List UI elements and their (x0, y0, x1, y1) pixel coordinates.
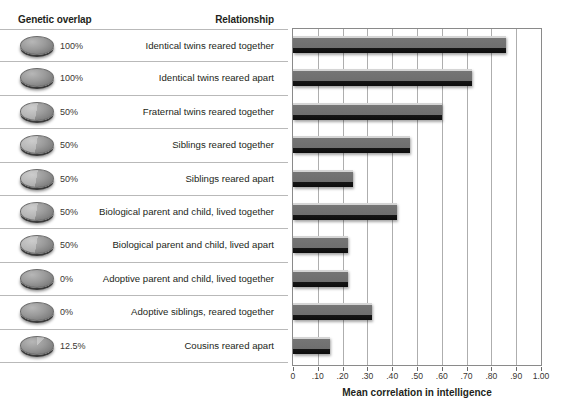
axis-tick-label: 0 (291, 371, 296, 381)
relationship-label: Identical twins reared together (145, 40, 274, 51)
bar-slot (293, 296, 541, 329)
axis-tick-label: .10 (312, 371, 324, 381)
bar (293, 303, 372, 320)
genetics-intelligence-figure: Genetic overlap Relationship 100%Identic… (0, 0, 573, 413)
genetic-overlap-disc-icon (20, 336, 54, 358)
bar-slot (293, 129, 541, 162)
plot-area (292, 28, 542, 366)
relationship-label: Adoptive parent and child, lived togethe… (103, 273, 274, 284)
bar-slot (293, 263, 541, 296)
table-row: 50%Siblings reared together (0, 129, 288, 162)
relationship-table: Genetic overlap Relationship 100%Identic… (0, 0, 288, 413)
bar (293, 69, 472, 86)
axis-tick-label: .70 (461, 371, 473, 381)
bar-slot (293, 196, 541, 229)
x-axis-title: Mean correlation in intelligence (292, 387, 542, 398)
genetic-overlap-percent: 0% (60, 274, 73, 284)
bar (293, 136, 410, 153)
bar (293, 236, 348, 253)
table-row: 100%Identical twins reared together (0, 29, 288, 62)
column-header-relationship: Relationship (215, 14, 274, 25)
genetic-overlap-disc-icon (20, 68, 54, 90)
axis-tick-label: .60 (436, 371, 448, 381)
genetic-overlap-percent: 12.5% (60, 341, 86, 351)
genetic-overlap-percent: 50% (60, 140, 78, 150)
genetic-overlap-disc-icon (20, 169, 54, 191)
bar-slot (293, 62, 541, 95)
table-row: 12.5%Cousins reared apart (0, 330, 288, 363)
genetic-overlap-disc-icon (20, 235, 54, 257)
table-row: 50%Fraternal twins reared together (0, 96, 288, 129)
genetic-overlap-disc-icon (20, 36, 54, 58)
bar-slot (293, 163, 541, 196)
table-row: 0%Adoptive parent and child, lived toget… (0, 263, 288, 296)
genetic-overlap-disc-icon (20, 269, 54, 291)
table-row: 100%Identical twins reared apart (0, 62, 288, 95)
table-row: 50%Biological parent and child, lived ap… (0, 229, 288, 262)
relationship-label: Identical twins reared apart (159, 72, 274, 83)
x-axis: Mean correlation in intelligence 0.10.20… (292, 366, 542, 413)
bar (293, 170, 353, 187)
bar-slot (293, 29, 541, 62)
table-row: 50%Biological parent and child, lived to… (0, 196, 288, 229)
relationship-label: Cousins reared apart (184, 340, 274, 351)
relationship-label: Adoptive siblings, reared together (131, 306, 274, 317)
bar-chart (292, 28, 542, 366)
genetic-overlap-disc-icon (20, 135, 54, 157)
bar (293, 36, 506, 53)
genetic-overlap-percent: 50% (60, 207, 78, 217)
axis-tick-label: .20 (337, 371, 349, 381)
relationship-label: Biological parent and child, lived apart (112, 239, 274, 250)
genetic-overlap-disc-icon (20, 102, 54, 124)
axis-tick-label: .30 (361, 371, 373, 381)
genetic-overlap-disc-icon (20, 202, 54, 224)
table-rows: 100%Identical twins reared together100%I… (0, 29, 288, 363)
column-header-genetic-overlap: Genetic overlap (18, 14, 92, 25)
axis-tick-label: .80 (485, 371, 497, 381)
genetic-overlap-percent: 0% (60, 307, 73, 317)
relationship-label: Biological parent and child, lived toget… (99, 206, 274, 217)
genetic-overlap-percent: 50% (60, 240, 78, 250)
genetic-overlap-percent: 100% (60, 73, 83, 83)
genetic-overlap-percent: 50% (60, 174, 78, 184)
relationship-label: Fraternal twins reared together (143, 106, 274, 117)
bar-slot (293, 229, 541, 262)
axis-tick-label: .90 (510, 371, 522, 381)
bar (293, 337, 330, 354)
bar (293, 203, 397, 220)
genetic-overlap-percent: 50% (60, 107, 78, 117)
axis-tick-label: .40 (386, 371, 398, 381)
axis-tick-label: 1.00 (533, 371, 550, 381)
table-row: 50%Siblings reared apart (0, 163, 288, 196)
bar (293, 270, 348, 287)
bar-slot (293, 330, 541, 363)
bar (293, 103, 442, 120)
relationship-label: Siblings reared apart (185, 173, 274, 184)
column-headers: Genetic overlap Relationship (0, 14, 288, 30)
table-row: 0%Adoptive siblings, reared together (0, 296, 288, 329)
axis-tick-label: .50 (411, 371, 423, 381)
bar-slot (293, 96, 541, 129)
relationship-label: Siblings reared together (172, 139, 274, 150)
genetic-overlap-disc-icon (20, 302, 54, 324)
genetic-overlap-percent: 100% (60, 41, 83, 51)
